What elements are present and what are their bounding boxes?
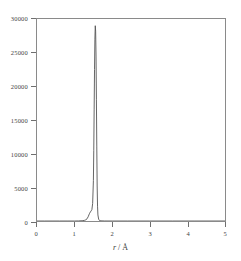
x-tick-5 <box>225 222 226 227</box>
y-tick-label-10000: 10000 <box>11 151 28 158</box>
y-tick-label-15000: 15000 <box>11 117 28 124</box>
x-tick-1 <box>74 222 75 227</box>
rdf-curve <box>37 26 225 221</box>
y-tick-label-20000: 20000 <box>11 83 28 90</box>
y-tick-label-30000: 30000 <box>11 15 28 22</box>
x-tick-label-0: 0 <box>26 230 46 237</box>
data-curve-layer <box>37 19 225 221</box>
x-tick-2 <box>112 222 113 227</box>
x-axis-title-units: / Å <box>116 243 128 252</box>
x-tick-label-1: 1 <box>64 230 84 237</box>
x-tick-4 <box>188 222 189 227</box>
y-tick-label-5000: 5000 <box>14 185 28 192</box>
x-tick-label-3: 3 <box>140 230 160 237</box>
x-tick-label-4: 4 <box>178 230 198 237</box>
y-tick-label-25000: 25000 <box>11 49 28 56</box>
x-tick-0 <box>36 222 37 227</box>
x-tick-label-2: 2 <box>102 230 122 237</box>
x-tick-label-5: 5 <box>215 230 235 237</box>
x-axis-title: r / Å <box>0 243 241 252</box>
chart-container: 0 5000 10000 15000 20000 25000 30000 0 1… <box>0 0 241 261</box>
y-tick-label-0: 0 <box>25 219 28 226</box>
x-tick-3 <box>150 222 151 227</box>
plot-area <box>36 18 226 222</box>
